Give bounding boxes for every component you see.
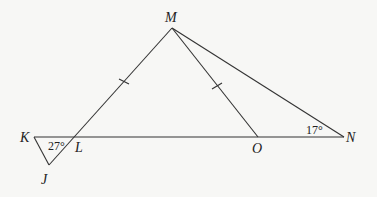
label-L: L (74, 140, 83, 155)
tick-mark-MO (212, 83, 222, 89)
label-N: N (345, 130, 356, 145)
tick-mark-ML (119, 79, 129, 84)
angle-label-17: 17° (306, 123, 323, 137)
label-O: O (252, 141, 262, 156)
segment-MO (172, 28, 258, 137)
segment-MJ (49, 28, 172, 165)
angle-label-27: 27° (48, 139, 65, 153)
label-K: K (19, 130, 30, 145)
label-J: J (41, 172, 48, 187)
segment-KJ (34, 137, 49, 165)
label-M: M (164, 10, 178, 25)
segment-MN (172, 28, 344, 137)
geometry-diagram: M K L J O N 27° 17° (0, 0, 377, 197)
